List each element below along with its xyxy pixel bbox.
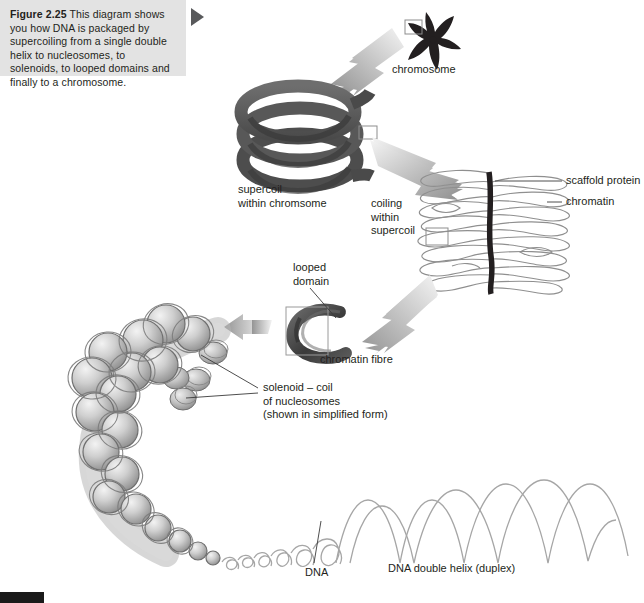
figure-canvas: Figure 2.25 This diagram shows you how D…	[0, 0, 644, 603]
label-dna: DNA	[305, 566, 328, 580]
label-chromatin: chromatin	[566, 195, 614, 209]
label-supercoil: supercoil within chromsome	[238, 183, 327, 210]
arrow-chromosome-to-supercoil	[331, 28, 404, 96]
label-chromatin-fibre: chromatin fibre	[320, 353, 393, 367]
label-chromosome: chromosome	[392, 63, 456, 77]
play-triangle-icon	[191, 8, 204, 26]
figure-number: Figure 2.25	[10, 8, 67, 20]
label-coiling-within-supercoil: coiling within supercoil	[371, 197, 415, 238]
label-scaffold-protein: scaffold protein	[566, 174, 640, 188]
scaffold-protein-bar	[489, 172, 492, 294]
leader-lines-right	[495, 181, 562, 202]
leader-line-dna	[314, 521, 321, 563]
label-solenoid: solenoid – coil of nucleosomes (shown in…	[263, 381, 388, 422]
solenoid-graphic	[67, 298, 228, 565]
figure-caption-text: Figure 2.25 This diagram shows you how D…	[10, 8, 176, 90]
dna-double-helix-graphic	[222, 480, 628, 569]
diagram-artwork	[0, 0, 644, 603]
arrow-loopeddomain-to-solenoid	[224, 314, 272, 340]
nucleosome-group	[72, 305, 220, 565]
looped-domain-graphic	[286, 307, 346, 358]
page-footer-bar	[0, 592, 44, 603]
label-dna-double-helix: DNA double helix (duplex)	[388, 562, 515, 576]
arrow-supercoil-to-chromatin	[370, 137, 463, 200]
supercoil-graphic	[241, 86, 377, 191]
arrow-chromatin-to-looped-domain	[362, 275, 438, 355]
figure-caption-box: Figure 2.25 This diagram shows you how D…	[0, 0, 186, 76]
label-looped-domain: looped domain	[293, 261, 329, 288]
chromosome-graphic	[405, 12, 461, 70]
